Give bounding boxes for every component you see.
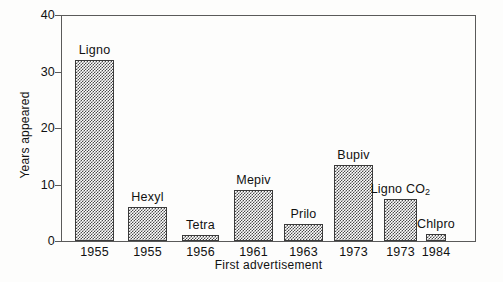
- bar: [182, 235, 219, 241]
- bar-label: Hexyl: [88, 191, 208, 204]
- y-tick-label: 40: [20, 9, 55, 21]
- bar: [284, 224, 323, 241]
- bar-chart-figure: Years appeared 010203040 LignoHexylTetra…: [0, 0, 503, 282]
- y-tick-label: 10: [20, 179, 55, 191]
- bar-label: Ligno: [35, 44, 155, 57]
- x-tick-label: 1984: [396, 245, 476, 259]
- x-axis-title: First advertisement: [61, 258, 476, 272]
- bar-label: Chlpro: [376, 218, 496, 231]
- bar-label: Ligno CO2: [341, 183, 461, 197]
- bar: [75, 60, 114, 241]
- y-tick-label: 20: [20, 122, 55, 134]
- y-tick-label: 0: [20, 235, 55, 247]
- y-tick-label: 30: [20, 66, 55, 78]
- bar: [334, 165, 373, 241]
- bar-label: Bupiv: [294, 149, 414, 162]
- bar: [426, 234, 446, 241]
- bar-label: Mepiv: [194, 174, 314, 187]
